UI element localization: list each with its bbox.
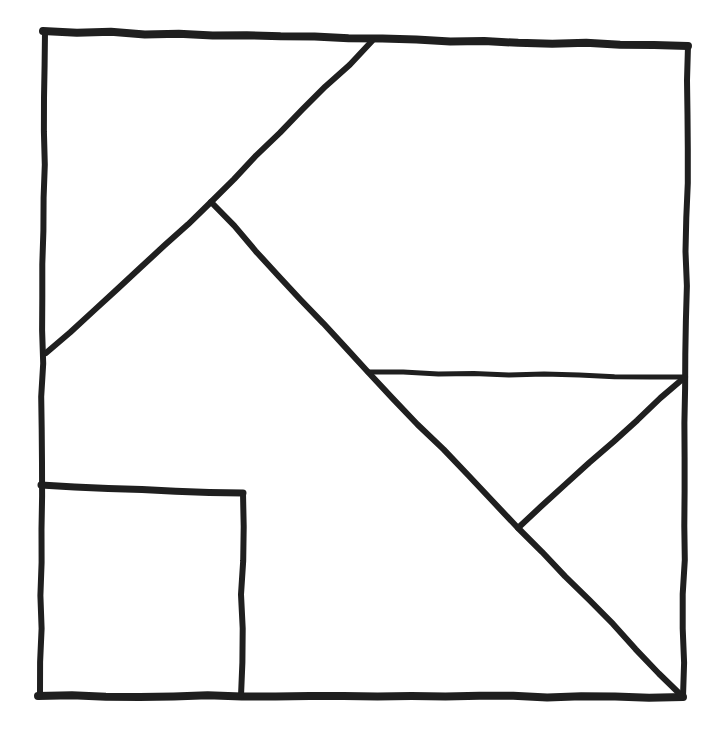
- outer-square-right-edge: [683, 46, 688, 697]
- outer-square-bottom-edge: [38, 695, 683, 697]
- cut-long-diagonal-to-bottom-right: [211, 202, 683, 697]
- small-square-top-edge: [41, 485, 243, 493]
- cut-right-notch-diagonal: [518, 377, 685, 528]
- page-background: [0, 0, 720, 734]
- outer-square-left-edge: [40, 32, 45, 695]
- cut-top-edge-to-left-edge-diagonal: [46, 41, 372, 353]
- small-square-right-edge: [241, 493, 244, 696]
- cut-horizontal-to-right-edge: [368, 372, 685, 377]
- dissected-square-figure: [0, 0, 720, 734]
